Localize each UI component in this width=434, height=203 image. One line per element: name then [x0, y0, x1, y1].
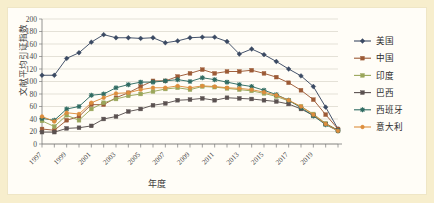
data-point-marker	[65, 118, 69, 122]
data-point-marker	[114, 85, 119, 90]
x-tick-label: 2003	[102, 150, 118, 166]
data-point-marker	[361, 74, 365, 78]
data-point-marker	[250, 88, 254, 92]
data-point-marker	[89, 101, 93, 105]
y-tick-label: 60	[30, 102, 38, 111]
data-point-marker	[200, 35, 205, 40]
data-point-marker	[274, 75, 278, 79]
y-tick-label: 200	[26, 15, 38, 24]
data-point-marker	[65, 111, 69, 115]
legend-label: 中国	[376, 52, 394, 63]
data-point-marker	[299, 105, 303, 109]
data-point-marker	[213, 71, 217, 75]
data-point-marker	[77, 104, 82, 109]
data-point-marker	[299, 88, 303, 92]
data-point-marker	[114, 35, 119, 40]
legend-item-2[interactable]: 印度	[354, 70, 394, 81]
x-tick-label: 1997	[28, 150, 44, 166]
data-point-marker	[176, 84, 180, 88]
data-point-marker	[188, 71, 192, 75]
legend-label: 美国	[376, 35, 394, 46]
y-tick-label: 20	[30, 127, 38, 136]
data-point-marker	[138, 36, 143, 41]
data-point-marker	[213, 98, 217, 102]
data-point-marker	[151, 80, 156, 85]
data-point-marker	[151, 90, 155, 94]
legend-item-0[interactable]: 美国	[354, 35, 394, 46]
data-point-marker	[336, 129, 340, 133]
data-point-marker	[213, 85, 217, 89]
legend-item-4[interactable]: 西班牙	[354, 104, 403, 115]
data-point-marker	[126, 110, 130, 114]
data-point-marker	[360, 39, 365, 44]
data-point-marker	[274, 100, 278, 104]
data-point-marker	[77, 118, 81, 122]
legend-item-1[interactable]: 中国	[354, 52, 394, 63]
data-point-marker	[89, 124, 93, 128]
series-line	[42, 87, 338, 131]
y-axis-ticks: 020406080100120140160180200	[26, 15, 42, 149]
data-point-marker	[151, 35, 156, 40]
legend-item-3[interactable]: 巴西	[354, 88, 394, 98]
data-point-marker	[237, 86, 241, 90]
data-point-marker	[324, 122, 328, 126]
data-point-marker	[360, 107, 365, 112]
data-point-marker	[102, 101, 106, 105]
data-point-marker	[287, 81, 291, 85]
y-tick-label: 120	[26, 65, 38, 74]
legend-label: 印度	[376, 70, 394, 81]
data-point-marker	[225, 86, 229, 90]
data-point-marker	[225, 96, 229, 100]
plot-area: 020406080100120140160180200 199719992001…	[8, 8, 426, 194]
data-point-marker	[311, 98, 315, 102]
data-point-marker	[139, 107, 143, 111]
x-tick-label: 2017	[274, 150, 290, 166]
series-4	[40, 75, 341, 133]
data-point-marker	[52, 125, 56, 129]
data-point-marker	[163, 40, 168, 45]
data-point-marker	[52, 120, 56, 124]
data-point-marker	[175, 77, 180, 82]
data-point-marker	[40, 130, 44, 134]
legend-label: 巴西	[376, 88, 394, 98]
x-tick-label: 2001	[77, 150, 93, 166]
data-point-marker	[40, 115, 44, 119]
data-point-marker	[188, 98, 192, 102]
x-axis-label: 年度	[8, 177, 306, 190]
data-point-marker	[101, 32, 106, 37]
y-tick-label: 80	[30, 90, 38, 99]
series-line	[42, 86, 338, 131]
data-point-marker	[102, 96, 106, 100]
data-point-marker	[77, 112, 81, 116]
data-point-marker	[114, 115, 118, 119]
data-point-marker	[200, 96, 204, 100]
legend-label: 西班牙	[376, 104, 403, 115]
data-point-marker	[274, 93, 278, 97]
y-tick-label: 140	[26, 52, 38, 61]
data-point-marker	[151, 86, 155, 90]
y-tick-label: 40	[30, 115, 38, 124]
legend-item-5[interactable]: 意大利	[354, 121, 403, 132]
data-point-marker	[287, 98, 291, 102]
data-point-marker	[139, 92, 143, 96]
x-tick-label: 2005	[126, 150, 142, 166]
y-tick-label: 0	[33, 140, 37, 149]
data-point-marker	[126, 82, 131, 87]
data-point-marker	[163, 101, 167, 105]
data-point-marker	[323, 105, 328, 110]
data-point-marker	[311, 113, 315, 117]
x-tick-label: 2009	[176, 150, 192, 166]
x-tick-label: 2007	[151, 150, 167, 166]
chart-legend: 美国中国印度巴西西班牙意大利	[354, 35, 403, 132]
data-point-marker	[324, 113, 328, 117]
data-point-marker	[52, 130, 56, 134]
x-tick-label: 2019	[299, 150, 315, 166]
data-point-marker	[361, 125, 365, 129]
data-point-marker	[250, 68, 254, 72]
data-point-marker	[237, 96, 241, 100]
data-point-marker	[286, 67, 291, 72]
data-point-marker	[176, 98, 180, 102]
data-point-marker	[126, 91, 130, 95]
y-tick-label: 160	[26, 40, 38, 49]
x-tick-label: 2011	[200, 150, 216, 166]
